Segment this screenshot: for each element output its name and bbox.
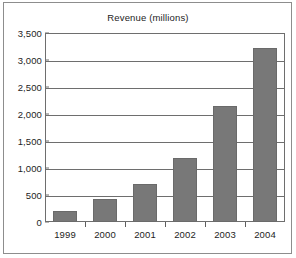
chart-screenshot: Revenue (millions) 05001,0001,5002,0002,…: [0, 0, 296, 258]
x-axis: 199920002001200220032004: [45, 222, 285, 248]
y-tick-label: 1,500: [18, 136, 42, 147]
y-tick-label: 1,000: [18, 163, 42, 174]
y-tick-label: 2,500: [18, 82, 42, 93]
x-tick-mark: [85, 222, 86, 227]
y-tick-mark: [45, 195, 49, 196]
x-tick-label-1999: 1999: [54, 229, 76, 240]
gridline: [46, 142, 284, 143]
y-tick-mark: [45, 60, 49, 61]
x-tick-label-2000: 2000: [94, 229, 116, 240]
x-tick-mark: [165, 222, 166, 227]
plot-area: [45, 33, 285, 222]
x-tick-mark: [245, 222, 246, 227]
y-tick-mark: [45, 87, 49, 88]
x-tick-label-2004: 2004: [254, 229, 276, 240]
x-tick-mark: [205, 222, 206, 227]
x-tick-label-2001: 2001: [134, 229, 156, 240]
y-tick-mark: [45, 168, 49, 169]
y-tick-label: 3,000: [18, 55, 42, 66]
y-tick-label: 500: [26, 190, 42, 201]
y-tick-label: 2,000: [18, 109, 42, 120]
x-tick-label-2002: 2002: [174, 229, 196, 240]
chart-title: Revenue (millions): [0, 12, 296, 23]
gridline: [46, 88, 284, 89]
y-tick-label: 0: [37, 217, 42, 228]
y-axis: 05001,0001,5002,0002,5003,0003,500: [4, 33, 42, 222]
gridline: [46, 196, 284, 197]
gridline: [46, 61, 284, 62]
x-tick-mark: [125, 222, 126, 227]
gridline: [46, 169, 284, 170]
y-tick-mark: [45, 33, 49, 34]
gridlines: [46, 34, 284, 221]
y-tick-mark: [45, 141, 49, 142]
y-tick-mark: [45, 114, 49, 115]
y-tick-label: 3,500: [18, 28, 42, 39]
x-tick-label-2003: 2003: [214, 229, 236, 240]
gridline: [46, 115, 284, 116]
